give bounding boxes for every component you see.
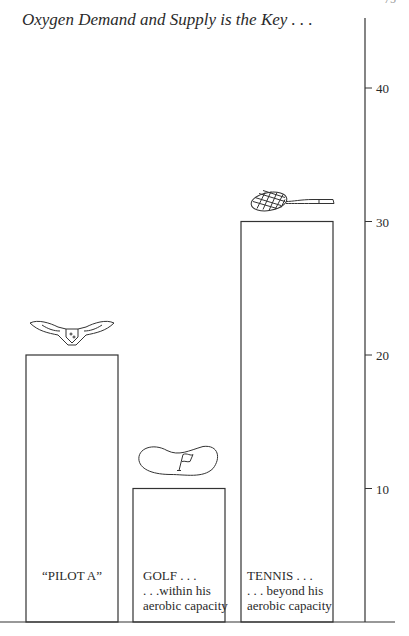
y-tick-label: 30 [376, 215, 389, 230]
y-tick-label: 40 [376, 81, 389, 96]
bar-label-subtitle: aerobic capacity [247, 598, 332, 613]
bar-label-title: “PILOT A” [30, 568, 114, 583]
bar-label-1: “PILOT A” [30, 568, 114, 583]
golf-green-flag-icon [139, 446, 218, 475]
bar-label-3: TENNIS . . .. . . beyond hisaerobic capa… [247, 568, 332, 613]
y-tick-label: 20 [376, 348, 389, 363]
bar-label-title: GOLF . . . [143, 568, 228, 583]
bar-label-subtitle: . . .within his [143, 583, 228, 598]
bar-label-title: TENNIS . . . [247, 568, 332, 583]
bar-3 [241, 222, 333, 623]
tennis-racket-icon [250, 190, 334, 214]
bar-label-2: GOLF . . .. . .within hisaerobic capacit… [143, 568, 228, 613]
bar-label-subtitle: aerobic capacity [143, 598, 228, 613]
chart-canvas: 10203040 [0, 0, 409, 636]
bar-label-subtitle: . . . beyond his [247, 583, 332, 598]
pilot-wings-icon [30, 321, 114, 345]
y-tick-label: 10 [376, 482, 389, 497]
